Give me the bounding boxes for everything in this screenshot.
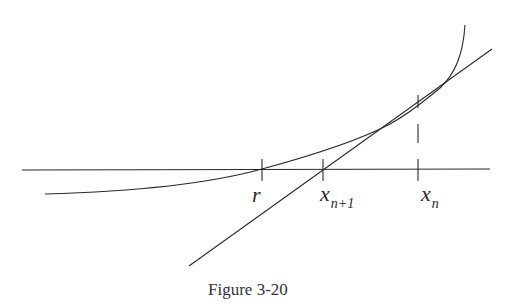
label-x-n: xn bbox=[420, 181, 439, 211]
label-x-n-plus-1: xn+1 bbox=[319, 181, 354, 211]
label-r: r bbox=[252, 182, 261, 207]
newton-method-diagram: r xn+1 xn Figure 3-20 bbox=[0, 0, 510, 304]
tangent-line bbox=[189, 49, 492, 266]
figure-caption: Figure 3-20 bbox=[208, 280, 288, 299]
x-axis bbox=[22, 169, 490, 170]
